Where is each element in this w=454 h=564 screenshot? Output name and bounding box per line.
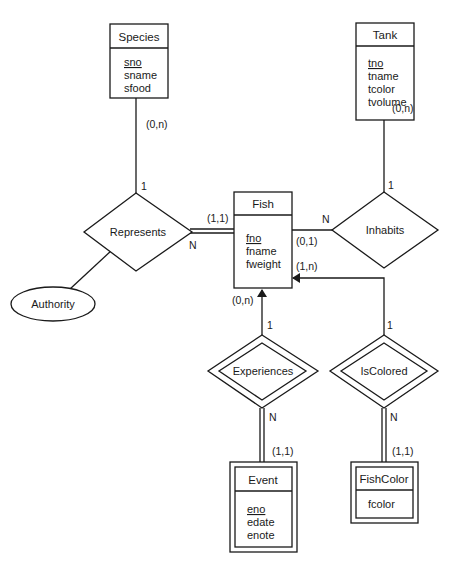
cardinality-label: 1 [387,319,393,331]
relationship-inhabits[interactable]: Inhabits [332,192,438,268]
entity-name: FishColor [359,473,408,485]
entity-fish[interactable]: Fish fno fname fweight [234,192,292,288]
cardinality-label: (1,1) [392,445,414,457]
cardinality-label: 1 [141,180,147,192]
entity-name: Species [119,31,160,43]
cardinality-label: N [390,411,398,423]
attribute: sname [124,69,157,81]
relationship-iscolored[interactable]: IsColored [330,335,438,408]
cardinality-label: N [269,411,277,423]
attribute: edate [247,516,275,528]
attribute: tname [368,70,399,82]
cardinality-label: 1 [388,179,394,191]
relationship-name: Represents [110,226,167,238]
cardinality-label: (1,1) [272,445,294,457]
attribute: fweight [246,258,281,270]
attribute: enote [247,529,275,541]
cardinality-label: (1,n) [296,260,318,272]
cardinality-label: (0,n) [392,102,414,114]
key-attribute: eno [247,503,265,515]
cardinality-label: N [189,239,197,251]
entity-event[interactable]: Event eno edate enote [230,462,297,552]
cardinality-label: (0,n) [232,294,254,306]
relationship-name: Experiences [233,365,294,377]
entity-species[interactable]: Species sno sname sfood [110,24,168,98]
relationship-represents[interactable]: Represents [84,193,192,271]
entity-fishcolor[interactable]: FishColor fcolor [351,462,418,523]
attribute: fname [246,245,277,257]
key-attribute: tno [368,57,383,69]
attribute: tcolor [368,83,395,95]
attribute: sfood [124,82,151,94]
key-attribute: sno [124,56,142,68]
cardinality-label: (0,n) [146,118,168,130]
attribute-name: Authority [31,298,75,310]
relationship-name: IsColored [360,365,407,377]
cardinality-label: 1 [267,319,273,331]
cardinality-label: N [322,213,330,225]
attribute-authority[interactable]: Authority [11,287,95,321]
relationship-name: Inhabits [366,224,405,236]
key-attribute: fno [246,232,261,244]
entity-name: Event [248,474,278,486]
represents-authority-link [70,250,112,289]
cardinality-label: (0,1) [296,235,318,247]
er-diagram: Species sno sname sfood Tank tno tname t… [0,0,454,564]
entity-name: Tank [373,29,398,41]
attribute: fcolor [368,498,395,510]
relationship-experiences[interactable]: Experiences [208,335,318,408]
iscolored-fish-link [293,278,384,345]
entity-name: Fish [252,198,274,210]
cardinality-label: (1,1) [207,212,229,224]
